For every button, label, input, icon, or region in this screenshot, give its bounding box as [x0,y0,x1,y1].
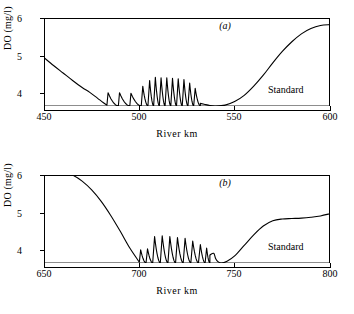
chart-panel-a: DO (mg/l) 6 5 4 (a) Standard 450 500 550… [0,0,354,157]
x-tick-label-a-600: 600 [310,112,350,122]
x-tick-mark-b-750 [234,263,235,267]
x-tick-label-b-700: 700 [119,269,159,279]
standard-label-a: Standard [268,84,304,95]
x-tick-mark-b-700 [139,263,140,267]
y-tick-label-b-4: 4 [0,246,22,256]
x-tick-mark-a-550 [234,106,235,110]
x-axis-line-a [44,110,331,111]
y-tick-label-b-5: 5 [0,209,22,219]
standard-label-b: Standard [268,241,304,252]
y-tick-label-a-6: 6 [0,14,22,24]
y-tick-label-a-4: 4 [0,89,22,99]
y-tick-label-b-6: 6 [0,171,22,181]
x-axis-line-b [44,267,331,268]
chart-panel-b: DO (mg/l) 6 5 4 (b) Standard 650 700 750… [0,157,354,314]
x-tick-mark-b-650 [44,263,45,267]
x-tick-mark-b-800 [330,263,331,267]
y-axis-label-b: DO (mg/l) [2,191,13,207]
x-tick-label-a-550: 550 [214,112,254,122]
x-tick-mark-a-500 [139,106,140,110]
panel-tag-a: (a) [195,20,255,31]
x-tick-mark-a-600 [330,106,331,110]
y-axis-label-a: DO (mg/l) [2,34,13,50]
x-tick-mark-a-450 [44,106,45,110]
x-tick-label-b-800: 800 [310,269,350,279]
x-axis-label-b: River km [0,285,354,296]
panel-tag-b: (b) [195,177,255,188]
x-axis-label-a: River km [0,128,354,139]
x-tick-label-a-500: 500 [119,112,159,122]
x-tick-label-a-450: 450 [24,112,64,122]
y-tick-label-a-5: 5 [0,52,22,62]
figure-dissolved-oxygen-profiles: DO (mg/l) 6 5 4 (a) Standard 450 500 550… [0,0,354,314]
x-tick-label-b-750: 750 [214,269,254,279]
x-tick-label-b-650: 650 [24,269,64,279]
